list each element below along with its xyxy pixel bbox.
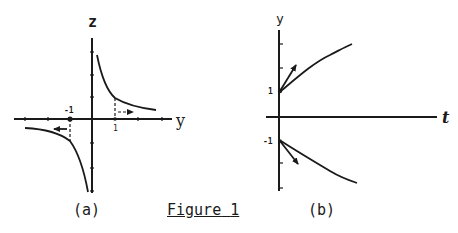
lower-solution-curve	[281, 141, 357, 183]
tick-label-neg-one-b: -1	[263, 137, 273, 146]
t-axis-label: t	[442, 108, 450, 127]
figure-canvas: z y -1 1 y t 1 -1	[0, 0, 458, 233]
y-axis-label: y	[175, 111, 185, 130]
tangent-arrow-down-icon	[280, 141, 298, 164]
upper-branch-curve	[97, 55, 156, 110]
tick-label-one-b: 1	[268, 87, 273, 96]
z-axis-label: z	[88, 13, 97, 31]
y-axis-label-b: y	[276, 11, 284, 26]
initial-point-neg-one	[278, 139, 282, 143]
tangent-arrow-up-icon	[280, 65, 296, 91]
panel-b: y t 1 -1	[263, 11, 450, 191]
caption-a: (a)	[73, 201, 100, 219]
upper-solution-curve	[281, 44, 352, 91]
tick-label-neg-one: -1	[64, 106, 74, 115]
figure-title: Figure 1	[167, 201, 239, 219]
figure-title-word: Figure	[167, 201, 221, 219]
tick-label-one: 1	[113, 124, 118, 133]
panel-a: z y -1 1	[14, 13, 185, 193]
initial-point-one	[278, 89, 282, 93]
point-pos-one	[113, 117, 117, 121]
caption-b: (b)	[308, 201, 335, 219]
point-neg-one	[67, 116, 72, 121]
figure-title-number: 1	[230, 201, 239, 219]
lower-branch-curve	[25, 128, 88, 192]
